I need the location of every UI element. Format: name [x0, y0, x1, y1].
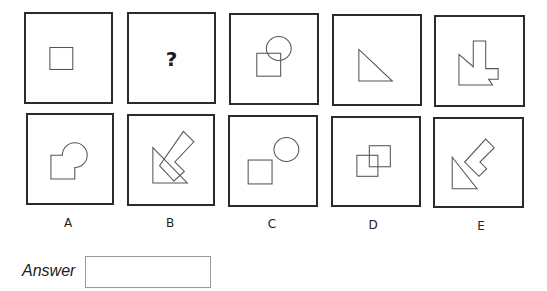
sequence-panel-5 — [434, 15, 525, 107]
square-icon — [26, 14, 111, 102]
option-label-c: C — [257, 217, 287, 231]
sequence-panel-2: ? — [127, 12, 216, 104]
option-panel-c[interactable] — [228, 115, 318, 207]
option-label-d: D — [358, 218, 388, 232]
option-label-e: E — [466, 219, 496, 233]
right-triangle-icon — [334, 16, 420, 104]
answer-input[interactable] — [85, 256, 211, 288]
answer-label: Answer — [22, 262, 75, 280]
sequence-panel-1 — [24, 12, 113, 104]
option-label-b: B — [155, 216, 185, 230]
option-panel-a[interactable] — [26, 113, 114, 205]
triangle-overlap-l-shape-icon — [129, 116, 213, 204]
square-merged-circle-icon — [28, 115, 112, 203]
option-label-a: A — [53, 216, 83, 230]
square-circle-overlap-icon — [231, 15, 317, 103]
triangle-separate-l-shape-icon — [435, 119, 522, 206]
option-panel-b[interactable] — [127, 114, 215, 206]
two-overlapping-squares-icon — [333, 118, 419, 205]
merged-triangle-l-shape-icon — [436, 17, 523, 105]
sequence-panel-3 — [229, 13, 319, 105]
square-separate-circle-icon — [230, 117, 316, 205]
question-mark: ? — [129, 47, 214, 71]
option-panel-d[interactable] — [331, 116, 421, 207]
option-panel-e[interactable] — [433, 117, 524, 208]
sequence-panel-4 — [332, 14, 422, 106]
